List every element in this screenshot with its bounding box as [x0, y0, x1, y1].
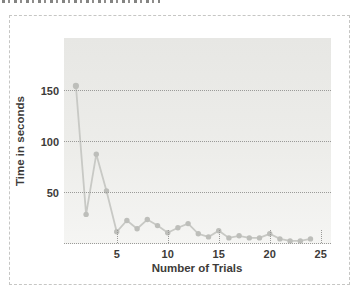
- x-tick-label-5: 5: [105, 247, 129, 261]
- data-point-trial-24: [308, 236, 313, 241]
- gridline-y-100: [64, 141, 331, 142]
- x-tick-label-25: 25: [309, 247, 333, 261]
- y-tick-label-100: 100: [29, 135, 59, 149]
- data-point-trial-16: [226, 235, 231, 240]
- data-point-trial-11: [175, 225, 180, 230]
- data-point-trial-7: [134, 226, 139, 231]
- data-point-trial-3: [94, 152, 99, 157]
- gridline-y-0: [64, 243, 331, 244]
- gridline-y-50: [64, 192, 331, 193]
- gridline-y-150: [64, 90, 331, 91]
- data-point-trial-8: [145, 217, 150, 222]
- series-line: [76, 86, 311, 241]
- data-point-trial-2: [83, 212, 88, 217]
- data-point-trial-1: [73, 83, 79, 89]
- data-point-trial-14: [206, 234, 211, 239]
- x-tick-label-10: 10: [156, 247, 180, 261]
- data-point-trial-18: [247, 235, 252, 240]
- clipped-text-fragment: [2, 0, 160, 3]
- data-point-trial-13: [196, 231, 201, 236]
- x-axis-title: Number of Trials: [122, 262, 272, 274]
- data-point-trial-6: [124, 218, 129, 223]
- x-tick-label-15: 15: [207, 247, 231, 261]
- y-tick-label-50: 50: [29, 186, 59, 200]
- data-point-trial-17: [236, 233, 241, 238]
- figure-frame: 50100150 510152025 Time in seconds Numbe…: [9, 15, 350, 285]
- y-axis-title: Time in seconds: [14, 86, 28, 196]
- data-point-trial-21: [277, 236, 282, 241]
- x-tick-stub-20: [270, 230, 271, 243]
- plot-area: [64, 38, 331, 244]
- x-tick-label-20: 20: [258, 247, 282, 261]
- data-point-trial-19: [257, 235, 262, 240]
- data-point-trial-12: [185, 221, 190, 226]
- x-tick-stub-15: [219, 230, 220, 243]
- x-tick-stub-10: [168, 230, 169, 243]
- x-tick-stub-5: [117, 230, 118, 243]
- x-tick-stub-25: [321, 230, 322, 243]
- data-point-trial-9: [155, 223, 160, 228]
- y-tick-label-150: 150: [29, 84, 59, 98]
